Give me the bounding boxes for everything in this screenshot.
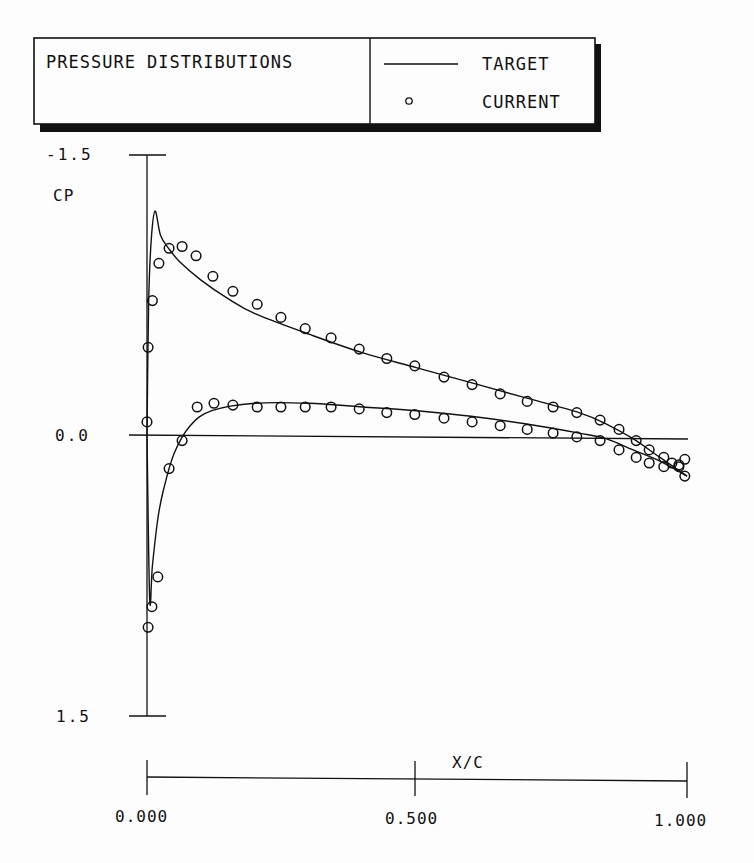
current-data-point (467, 417, 477, 427)
current-data-point (326, 402, 336, 412)
legend-box: PRESSURE DISTRIBUTIONS TARGET CURRENT (34, 38, 601, 132)
current-data-point (614, 445, 624, 455)
current-data-point (548, 428, 558, 438)
x-axis-line (147, 777, 687, 781)
current-data-point (439, 413, 449, 423)
x-tick-label-1: 1.000 (654, 811, 707, 830)
pressure-distribution-chart: PRESSURE DISTRIBUTIONS TARGET CURRENT -1… (0, 0, 754, 863)
current-data-point (153, 572, 163, 582)
current-data-point (522, 425, 532, 435)
current-data-point (228, 287, 238, 297)
current-data-point (276, 313, 286, 323)
current-data-point (572, 432, 582, 442)
current-data-point (143, 623, 153, 633)
current-data-point (354, 404, 364, 414)
target-curve-1 (147, 403, 687, 606)
legend-target-label: TARGET (482, 54, 549, 74)
current-data-point (326, 333, 336, 343)
current-data-point (154, 259, 164, 269)
current-data-point (631, 453, 641, 463)
x-axis: X/C 0.000 0.500 1.000 (115, 753, 707, 830)
current-data-point (192, 402, 202, 412)
plot-area (142, 211, 689, 632)
current-data-point (300, 324, 310, 334)
legend-title: PRESSURE DISTRIBUTIONS (46, 52, 293, 72)
current-data-point (382, 408, 392, 418)
legend-current-label: CURRENT (482, 92, 561, 112)
current-data-point (495, 421, 505, 431)
current-data-point (209, 399, 219, 409)
x-tick-label-05: 0.500 (385, 809, 438, 828)
current-data-point (680, 471, 690, 481)
y-tick-label-top: -1.5 (46, 145, 93, 164)
current-data-point (548, 402, 558, 412)
x-tick-label-0: 0.000 (115, 807, 168, 826)
y-axis-label: CP (53, 186, 74, 205)
current-data-point (354, 344, 364, 354)
current-data-point (208, 272, 218, 282)
current-data-point (252, 300, 262, 310)
current-data-point (644, 458, 654, 468)
current-data-point (147, 602, 157, 612)
y-tick-label-bottom: 1.5 (56, 707, 91, 726)
current-data-point (191, 251, 201, 261)
current-data-point (276, 402, 286, 412)
x-axis-label: X/C (452, 753, 484, 772)
current-data-point (177, 242, 187, 252)
y-tick-label-middle: 0.0 (55, 426, 90, 445)
current-data-point (439, 372, 449, 382)
current-data-point (680, 455, 690, 465)
